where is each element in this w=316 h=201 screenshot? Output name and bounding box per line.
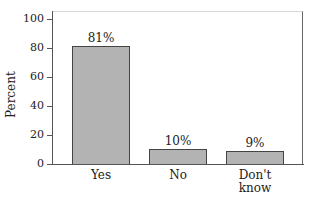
y-tick-label: 20 [30, 129, 44, 141]
y-axis-title: Percent [4, 71, 18, 118]
y-tick [47, 19, 52, 20]
x-category-label-line2: know [220, 182, 290, 195]
y-tick [47, 135, 52, 136]
bar-no [149, 149, 207, 164]
y-tick [47, 77, 52, 78]
x-category-label: Don't know [220, 169, 290, 195]
y-tick-label: 80 [30, 42, 44, 54]
y-tick-label: 100 [23, 13, 44, 25]
y-tick-label: 60 [30, 71, 44, 83]
bar-value-label: 10% [148, 134, 208, 148]
y-tick [47, 48, 52, 49]
bar-yes [72, 46, 130, 164]
x-category-label: Yes [66, 169, 136, 182]
y-axis [52, 11, 53, 165]
bar-dont-know [226, 151, 284, 164]
y-tick-label: 40 [30, 100, 44, 112]
y-tick [47, 164, 52, 165]
x-category-label: No [143, 169, 213, 182]
y-tick-label: 0 [37, 158, 44, 170]
x-axis [52, 164, 304, 165]
bar-value-label: 81% [71, 31, 131, 45]
y-tick [47, 106, 52, 107]
bar-value-label: 9% [225, 136, 285, 150]
